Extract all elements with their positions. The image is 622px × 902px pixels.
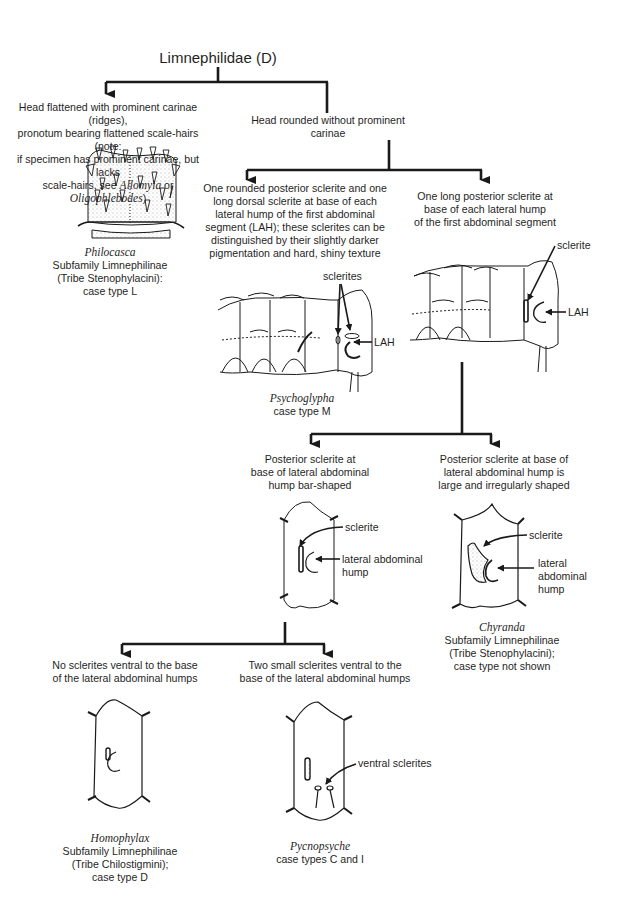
result-pycnopsyche: Pycnopsyche case types C and I xyxy=(270,840,370,866)
bar-shaped-segment-illustration xyxy=(280,502,338,608)
case-type: case type M xyxy=(262,405,342,418)
label-ventral-sclerites: ventral sclerites xyxy=(358,757,432,770)
label-hump-3: hump xyxy=(538,583,565,596)
case-type: case type L xyxy=(40,285,180,298)
result-chyranda: Chyranda Subfamily Limnephilinae (Tribe … xyxy=(422,621,582,673)
genus-oligophlebodes: Oligophlebodes xyxy=(70,192,143,204)
node-bar-shaped: Posterior sclerite at base of lateral ab… xyxy=(240,453,380,492)
label-sclerite: sclerite xyxy=(529,529,563,542)
label-sclerites: sclerites xyxy=(323,270,362,283)
chyranda-segment-illustration xyxy=(452,504,526,608)
node-one-long-sclerite: One long posterior sclerite at base of e… xyxy=(405,190,565,229)
label-hump-2: hump xyxy=(342,566,369,579)
label-sclerite: sclerite xyxy=(345,521,379,534)
genus-name: Homophylax xyxy=(50,832,190,845)
case-type: case type not shown xyxy=(422,660,582,673)
tribe: (Tribe Stenophylacini): xyxy=(40,272,180,285)
subfamily: Subfamily Limnephilinae xyxy=(422,634,582,647)
label-sclerite: sclerite xyxy=(557,239,591,252)
result-homophylax: Homophylax Subfamily Limnephilinae (Trib… xyxy=(50,832,190,884)
node-no-ventral: No sclerites ventral to the base of the … xyxy=(40,659,210,685)
label-hump-1: lateral xyxy=(538,557,567,570)
label-lah: LAH xyxy=(568,306,589,319)
node-two-ventral: Two small sclerites ventral to the base … xyxy=(230,659,420,685)
genus-name: Pycnopsyche xyxy=(270,840,370,853)
node-flattened-head-line-3: if specimen has prominent carinae, but l… xyxy=(4,153,212,179)
subfamily: Subfamily Limnephilinae xyxy=(50,845,190,858)
subfamily: Subfamily Limnephilinae xyxy=(40,259,180,272)
node-flattened-head-line-4: scale-hairs, see Allomyia or Oligophlebo… xyxy=(4,179,212,205)
case-type: case types C and I xyxy=(270,853,370,866)
node-flattened-head-line-2: pronotum bearing flattened scale-hairs (… xyxy=(4,127,212,153)
label-pointers xyxy=(300,246,566,784)
genus-allomyia: Allomyia xyxy=(120,179,162,191)
node-irregular: Posterior sclerite at base of lateral ab… xyxy=(424,453,584,492)
pycnopsyche-segment-illustration xyxy=(286,702,352,820)
node-flattened-head: Head flattened with prominent carinae (r… xyxy=(4,101,212,205)
homophylax-segment-illustration xyxy=(88,700,150,808)
result-philocasca: Philocasca Subfamily Limnephilinae (Trib… xyxy=(40,246,180,298)
label-hump-2: abdominal xyxy=(538,570,587,583)
node-two-sclerites: One rounded posterior sclerite and one l… xyxy=(200,182,390,260)
tribe: (Tribe Stenophylacini); xyxy=(422,647,582,660)
label-hump-1: lateral abdominal xyxy=(342,553,423,566)
genus-name: Philocasca xyxy=(40,246,180,259)
node-rounded-head: Head rounded without prominent carinae xyxy=(238,114,418,140)
long-sclerite-larva-illustration xyxy=(410,261,558,372)
genus-name: Chyranda xyxy=(422,621,582,634)
genus-name: Psychoglypha xyxy=(262,392,342,405)
label-lah: LAH xyxy=(374,336,395,349)
case-type: case type D xyxy=(50,871,190,884)
key-title: Limnephilidae (D) xyxy=(148,49,288,67)
tribe: (Tribe Chilostigmini); xyxy=(50,858,190,871)
node-flattened-head-line-1: Head flattened with prominent carinae (r… xyxy=(4,101,212,127)
psychoglypha-larva-illustration xyxy=(218,290,372,392)
result-psychoglypha: Psychoglypha case type M xyxy=(262,392,342,418)
